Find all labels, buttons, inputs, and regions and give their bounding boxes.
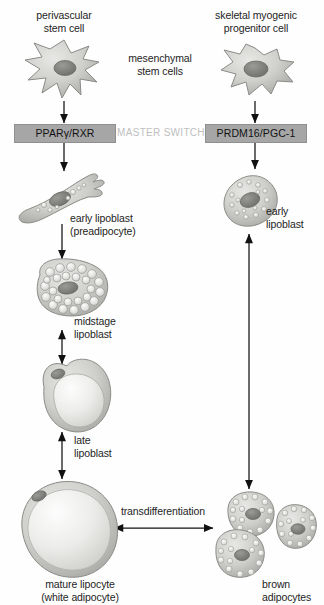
cell-mature-lipocyte <box>22 481 118 577</box>
large-lipid-droplet <box>28 490 110 571</box>
cell-skeletal-myogenic-progenitor <box>221 44 294 95</box>
label-perivascular-stem-cell: perivascular stem cell <box>4 9 124 34</box>
label-skeletal-myogenic-progenitor-cell: skeletal myogenic progenitor cell <box>192 9 320 34</box>
master-switch-ppar-rxr[interactable]: PPARγ/RXR <box>14 124 116 143</box>
label-midstage-lipoblast: midstage lipoblast <box>74 315 164 340</box>
cell-brown-adipocytes <box>216 492 316 577</box>
cell-midstage-lipoblast <box>37 259 108 316</box>
lipid-droplets <box>41 263 105 315</box>
cell-late-lipoblast <box>43 359 111 432</box>
cell-perivascular-stem-cell <box>25 40 99 98</box>
label-early-lipoblast-brown: early lipoblast <box>266 205 322 230</box>
label-brown-adipocytes: brown adipocytes <box>262 578 324 603</box>
brown-adipocyte-2 <box>277 505 317 549</box>
brown-adipocyte-3 <box>216 530 264 578</box>
label-transdifferentiation: transdifferentiation <box>108 505 218 518</box>
lipid-droplets <box>36 183 86 212</box>
large-lipid-droplet <box>54 374 104 427</box>
lipid-droplets <box>230 180 270 220</box>
label-mesenchymal-stem-cells: mesenchymal stem cells <box>108 52 212 77</box>
differentiation-diagram: perivascular stem cell skeletal myogenic… <box>0 0 324 605</box>
master-switch-label: MASTER SWITCH <box>112 127 210 139</box>
master-switch-prdm16-pgc1[interactable]: PRDM16/PGC-1 <box>205 124 307 143</box>
brown-adipocyte-1 <box>228 492 274 536</box>
label-mature-lipocyte: mature lipocyte (white adipocyte) <box>10 578 150 603</box>
label-late-lipoblast: late lipoblast <box>74 434 154 459</box>
label-early-lipoblast-preadipocyte: early lipoblast (preadipocyte) <box>70 212 194 237</box>
